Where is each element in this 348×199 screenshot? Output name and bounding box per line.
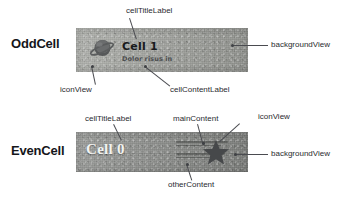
annotation-odd-background-view: backgroundView [271, 41, 330, 49]
cell-anatomy-figure: OddCell Cell 1 Dolor risus in cellTitleL… [0, 0, 348, 199]
anchor-dot-odd-icon-view [91, 65, 94, 68]
odd-cell-background-view[interactable]: Cell 1 Dolor risus in [76, 28, 248, 72]
annotation-even-background-view: backgroundView [271, 150, 330, 158]
planet-icon[interactable] [89, 37, 115, 61]
star-icon[interactable] [202, 139, 230, 166]
annotation-even-icon-view: iconView [258, 113, 290, 121]
row-caption-oddcell: OddCell [11, 36, 59, 51]
annotation-odd-cell-content-label: cellContentLabel [170, 86, 230, 94]
anchor-dot-even-background-view [234, 153, 237, 156]
odd-cell-content-label: Dolor risus in [122, 55, 172, 63]
leader-line-even-background-view [236, 154, 268, 155]
planet-icon-svg [89, 37, 115, 61]
anchor-dot-even-other-content [186, 163, 189, 166]
annotation-even-cell-title-label: cellTitleLabel [85, 115, 131, 123]
leader-line-odd-background-view [233, 45, 268, 46]
annotation-even-main-content: mainContent [173, 115, 218, 123]
odd-cell-title-label: Cell 1 [122, 40, 158, 53]
annotation-odd-cell-title-label: cellTitleLabel [126, 7, 172, 15]
row-caption-evencell: EvenCell [11, 143, 64, 158]
anchor-dot-even-main-content [202, 142, 205, 145]
star-icon-svg [202, 139, 230, 166]
even-cell-title-label: Cell 0 [86, 141, 125, 158]
anchor-dot-odd-background-view [231, 44, 234, 47]
anchor-dot-odd-cell-content-label [144, 65, 147, 68]
annotation-odd-icon-view: iconView [60, 86, 92, 94]
annotation-even-other-content: otherContent [168, 181, 214, 189]
